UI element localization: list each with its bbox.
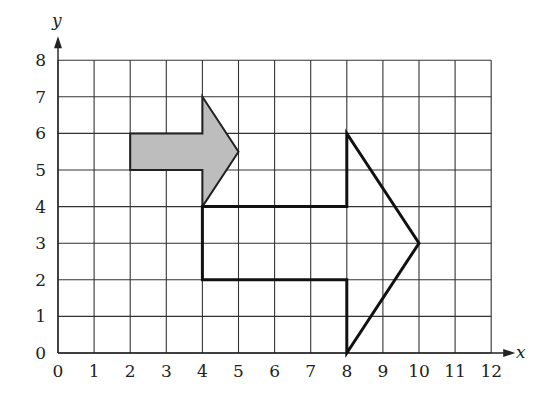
x-tick-label: 11 <box>444 361 466 381</box>
small-shaded-arrow <box>130 97 238 207</box>
y-axis-label: y <box>51 10 62 30</box>
x-tick-label: 4 <box>197 361 208 381</box>
x-tick-label: 12 <box>480 361 502 381</box>
x-tick-label: 8 <box>341 361 352 381</box>
y-tick-label: 5 <box>35 160 46 180</box>
x-tick-label: 9 <box>377 361 388 381</box>
y-axis-arrow-icon <box>54 36 62 48</box>
x-axis-arrow-icon <box>503 349 515 357</box>
y-tick-label: 8 <box>35 50 46 70</box>
axes <box>54 36 515 357</box>
y-tick-label: 1 <box>35 306 46 326</box>
x-tick-label: 0 <box>53 361 64 381</box>
coordinate-grid-diagram: 0123456789101112 012345678 x y <box>0 0 556 402</box>
x-tick-label: 1 <box>89 361 100 381</box>
x-tick-label: 7 <box>305 361 316 381</box>
x-tick-labels: 0123456789101112 <box>53 361 502 381</box>
y-tick-label: 0 <box>35 343 46 363</box>
x-axis-label: x <box>516 342 526 362</box>
y-tick-label: 3 <box>35 233 46 253</box>
y-tick-label: 7 <box>35 87 46 107</box>
x-tick-label: 10 <box>408 361 430 381</box>
x-tick-label: 2 <box>125 361 136 381</box>
y-tick-label: 6 <box>35 123 46 143</box>
y-tick-label: 4 <box>35 197 46 217</box>
grid-plot: 0123456789101112 012345678 x y <box>0 0 556 402</box>
x-tick-label: 6 <box>269 361 280 381</box>
y-tick-label: 2 <box>35 270 46 290</box>
x-tick-label: 3 <box>161 361 172 381</box>
y-tick-labels: 012345678 <box>35 50 46 363</box>
x-tick-label: 5 <box>233 361 244 381</box>
